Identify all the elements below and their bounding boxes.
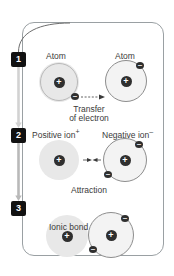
stage2-left-label-text: Positive ion — [32, 130, 75, 140]
stage1-caption-line2: of electron — [56, 113, 122, 123]
stage2-right-label-text: Negative ion — [102, 130, 149, 140]
stage2-electron-upper: – — [135, 141, 143, 148]
ionic-bond-diagram: 1 Atom Atom + – + – Transfer of electron… — [0, 0, 174, 276]
stage1-right-electron: – — [136, 62, 144, 69]
stage3-electron-lower: – — [89, 246, 97, 253]
nucleus-positive: + — [54, 155, 65, 166]
stage2-positive-ion: + — [39, 140, 79, 180]
stage1-left-electron: – — [71, 93, 79, 100]
stage-badge-2: 2 — [11, 128, 26, 143]
stage2-electron-lower: – — [104, 171, 112, 178]
stage2-right-label: Negative ion– — [102, 128, 153, 140]
nucleus-positive: + — [106, 230, 117, 241]
stage3-electron-upper: – — [121, 215, 129, 222]
nucleus-positive: + — [62, 231, 73, 242]
stage2-right-charge: – — [149, 128, 153, 135]
nucleus-positive: + — [121, 76, 132, 87]
stage-badge-3: 3 — [11, 201, 26, 216]
nucleus-positive: + — [54, 77, 65, 88]
stage2-caption: Attraction — [54, 185, 124, 195]
nucleus-positive: + — [120, 155, 131, 166]
stage-badge-1: 1 — [11, 52, 26, 67]
stage1-right-label: Atom — [115, 51, 135, 61]
stage2-left-label: Positive ion+ — [32, 128, 80, 140]
ionic-bond-label: Ionic bond — [49, 222, 88, 232]
stage2-left-charge: + — [75, 128, 79, 135]
stage1-left-label: Atom — [46, 51, 66, 61]
